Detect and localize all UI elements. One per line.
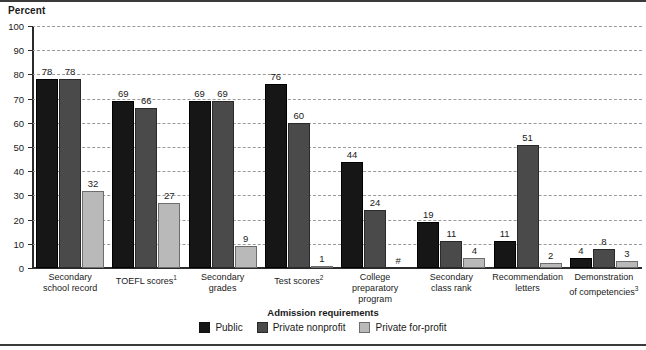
x-axis-category-label: TOEFL scores1 xyxy=(108,272,184,287)
bar-group: 76601 xyxy=(261,26,337,268)
bar xyxy=(135,108,157,268)
x-axis-category-label: Secondaryschool record xyxy=(32,272,108,294)
bar-value-label: 69 xyxy=(210,88,236,99)
bar-group: 787832 xyxy=(32,26,108,268)
x-axis-title: Admission requirements xyxy=(0,307,646,318)
bar xyxy=(616,261,638,268)
bar xyxy=(311,266,333,268)
y-axis-tick-label: 100 xyxy=(0,21,24,32)
bar-group: 4424# xyxy=(337,26,413,268)
plot-area: 78783269662769699766014424#1911411512483 xyxy=(32,26,642,268)
bar xyxy=(364,210,386,268)
bar-value-label: 11 xyxy=(438,228,464,239)
chart-figure: Percent 0102030405060708090100 787832696… xyxy=(0,0,646,350)
bar-value-label: 32 xyxy=(80,178,106,189)
y-axis-tick-label: 40 xyxy=(0,166,24,177)
bar-value-label: 24 xyxy=(362,197,388,208)
y-axis-tick-label: 60 xyxy=(0,117,24,128)
bar xyxy=(417,222,439,268)
bar-value-label: 51 xyxy=(515,132,541,143)
bar xyxy=(494,241,516,268)
bar-group: 19114 xyxy=(413,26,489,268)
legend-item: Public xyxy=(199,322,242,333)
legend-swatch xyxy=(359,322,370,333)
bar-value-label: 3 xyxy=(614,248,640,259)
bar-group: 11512 xyxy=(490,26,566,268)
x-axis-category-label: Demonstrationof competencies3 xyxy=(566,272,642,298)
legend-label: Public xyxy=(215,322,242,333)
bar xyxy=(112,101,134,268)
bar xyxy=(517,145,539,268)
bar-value-label: 27 xyxy=(156,190,182,201)
y-axis-title: Percent xyxy=(8,5,45,16)
bottom-divider xyxy=(0,344,646,346)
x-axis-category-labels: Secondaryschool recordTOEFL scores1Secon… xyxy=(32,272,642,308)
bar-value-label: 4 xyxy=(461,245,487,256)
x-axis-category-label: Collegepreparatoryprogram xyxy=(337,272,413,305)
legend-swatch xyxy=(199,322,210,333)
legend-swatch xyxy=(257,322,268,333)
bar-value-label: 78 xyxy=(57,66,83,77)
x-axis-category-label: Test scores2 xyxy=(261,272,337,287)
bar xyxy=(593,249,615,268)
bar xyxy=(235,246,257,268)
bar xyxy=(158,203,180,268)
bar-group: 483 xyxy=(566,26,642,268)
bar-value-label: # xyxy=(385,255,411,266)
y-axis-tick-label: 20 xyxy=(0,214,24,225)
bar-value-label: 66 xyxy=(133,95,159,106)
bar xyxy=(265,84,287,268)
bar xyxy=(341,162,363,268)
legend-label: Private nonprofit xyxy=(273,322,346,333)
bar-value-label: 11 xyxy=(492,228,518,239)
y-axis-tick-labels: 0102030405060708090100 xyxy=(0,26,28,269)
bar xyxy=(463,258,485,268)
bar xyxy=(570,258,592,268)
bar-value-label: 44 xyxy=(339,149,365,160)
x-axis-category-label: Recommendationletters xyxy=(490,272,566,294)
gridline xyxy=(32,268,642,269)
y-axis-tick-label: 70 xyxy=(0,93,24,104)
y-axis-tick-label: 50 xyxy=(0,142,24,153)
legend-item: Private for-profit xyxy=(359,322,446,333)
y-axis-tick-label: 90 xyxy=(0,45,24,56)
y-axis-tick xyxy=(28,268,33,269)
bar xyxy=(82,191,104,268)
y-axis-tick-label: 0 xyxy=(0,263,24,274)
bar xyxy=(189,101,211,268)
bar-value-label: 60 xyxy=(286,110,312,121)
bar-value-label: 2 xyxy=(538,250,564,261)
y-axis-tick-label: 10 xyxy=(0,238,24,249)
bar xyxy=(288,123,310,268)
x-axis-category-label: Secondarygrades xyxy=(185,272,261,294)
y-axis-tick-label: 30 xyxy=(0,190,24,201)
bar-group: 69699 xyxy=(185,26,261,268)
bar-value-label: 4 xyxy=(568,245,594,256)
y-axis-tick-label: 80 xyxy=(0,69,24,80)
bar xyxy=(36,79,58,268)
bar-value-label: 76 xyxy=(263,71,289,82)
legend-label: Private for-profit xyxy=(375,322,446,333)
bar-value-label: 8 xyxy=(591,236,617,247)
top-divider xyxy=(0,0,646,2)
bar-value-label: 19 xyxy=(415,209,441,220)
bar xyxy=(540,263,562,268)
bar xyxy=(59,79,81,268)
x-axis-category-label: Secondaryclass rank xyxy=(413,272,489,294)
bar xyxy=(212,101,234,268)
legend-item: Private nonprofit xyxy=(257,322,346,333)
bar-value-label: 1 xyxy=(309,253,335,264)
legend: PublicPrivate nonprofitPrivate for-profi… xyxy=(0,322,646,333)
bar-value-label: 9 xyxy=(233,233,259,244)
bar-group: 696627 xyxy=(108,26,184,268)
bar xyxy=(440,241,462,268)
